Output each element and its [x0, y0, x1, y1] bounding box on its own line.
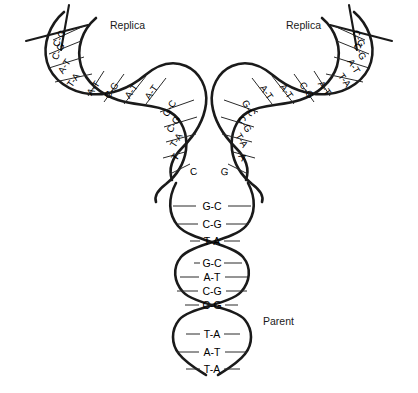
replica-right-base-pair: C-G: [236, 114, 255, 135]
replica-left-unpaired-base: C: [189, 166, 198, 178]
parent-base-pair: A-T: [204, 346, 222, 358]
label-replica-right: Replica: [286, 19, 321, 31]
replica-left-base-pair: A-T: [142, 82, 160, 101]
label-replica-left: Replica: [110, 19, 145, 31]
replica-right-unpaired-base: G: [220, 166, 229, 178]
dna-replication-illustration: G-C C-G T-A G-C A-T C-G C-G T-A A-T T-A: [0, 0, 418, 393]
parent-base-pair: T-A: [204, 363, 220, 375]
replica-right-base-pair: A-T: [278, 82, 296, 101]
replica-left-helix: C-G C-G A-T T-A A-T C-G A-T A-T G-C C-G …: [26, 5, 206, 202]
replica-right-unpaired-base: A: [236, 151, 249, 163]
replica-right-base-pair: A-T: [258, 83, 276, 102]
parent-base-pair: C-G: [202, 299, 221, 311]
parent-base-pair: G-C: [202, 257, 222, 269]
parent-base-pair: G-C: [202, 200, 222, 212]
dna-replication-diagram: G-C C-G T-A G-C A-T C-G C-G T-A A-T T-A: [0, 0, 418, 393]
replica-right-helix: C-G C-G A-T T-A A-T C-G A-T A-T G-C C-G …: [212, 5, 392, 202]
parent-base-pair: C-G: [202, 285, 221, 297]
label-parent: Parent: [263, 315, 294, 327]
replica-left-base-pair: A-T: [122, 81, 140, 100]
parent-helix: G-C C-G T-A G-C A-T C-G C-G T-A A-T T-A: [170, 183, 254, 375]
parent-base-pair: C-G: [202, 218, 221, 230]
parent-base-pair: A-T: [204, 271, 222, 283]
parent-base-pair: T-A: [204, 328, 220, 340]
parent-base-pair: T-A: [204, 235, 220, 247]
